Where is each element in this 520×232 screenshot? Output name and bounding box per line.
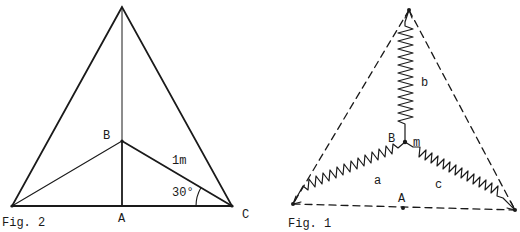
- fig1-dashed-right-side: [409, 10, 515, 210]
- fig1-point-a: [401, 206, 405, 210]
- figure-1: [293, 10, 515, 210]
- fig2-label-a: A: [118, 212, 126, 226]
- fig2-angle-arc: [196, 188, 201, 206]
- fig1-spring-a: [293, 142, 405, 204]
- fig1-points: [291, 8, 517, 212]
- fig2-point-c: [230, 204, 233, 207]
- fig1-point-right: [513, 208, 517, 212]
- fig2-point-b: [120, 139, 123, 142]
- fig1-point-left: [291, 202, 295, 206]
- fig1-label-b-point: B: [388, 132, 395, 146]
- fig1-label-b-spring: b: [421, 76, 428, 90]
- fig1-spring-c: [405, 142, 515, 210]
- fig2-label-angle: 30°: [172, 186, 194, 200]
- fig1-point-top: [407, 8, 411, 12]
- fig2-caption: Fig. 2: [2, 216, 45, 230]
- fig1-dashed-left-side: [293, 10, 409, 204]
- fig1-label-m: m: [413, 136, 420, 150]
- figure-2: [12, 7, 232, 206]
- fig2-label-c: C: [242, 208, 249, 222]
- fig2-label-length: 1m: [172, 154, 186, 168]
- fig1-caption: Fig. 1: [288, 217, 331, 231]
- fig2-label-b: B: [103, 129, 110, 143]
- diagram-canvas: B 1m 30° A C Fig. 2 b B m a c A Fig. 1: [0, 0, 520, 232]
- fig1-label-c-spring: c: [435, 178, 442, 192]
- fig1-spring-b: [398, 10, 413, 142]
- fig1-label-a-point: A: [398, 192, 406, 206]
- fig2-segment-b-left: [12, 141, 122, 206]
- fig1-point-center-mass: [403, 140, 407, 144]
- fig2-point-left: [10, 204, 13, 207]
- fig1-label-a-spring: a: [374, 174, 381, 188]
